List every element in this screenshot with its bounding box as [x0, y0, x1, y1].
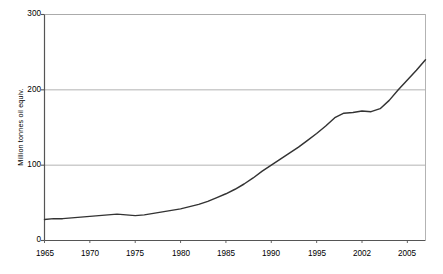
- y-tick-100: 100: [14, 161, 41, 169]
- x-tick-2000: 2002: [342, 249, 382, 259]
- x-tick-label: 1985: [206, 249, 246, 259]
- gridlines: [45, 15, 426, 166]
- x-tick-1990: 1990: [251, 249, 291, 259]
- axis-frame: [45, 15, 426, 241]
- y-tick-label: 200: [14, 86, 41, 94]
- axis-ticks: [41, 15, 407, 244]
- y-tick-300: 300: [14, 10, 41, 18]
- plot-area: [0, 0, 443, 274]
- x-tick-1970: 1970: [70, 249, 110, 259]
- y-tick-0: 0: [14, 236, 41, 244]
- x-tick-label: 1975: [115, 249, 155, 259]
- y-tick-label: 0: [14, 236, 41, 244]
- x-tick-label: 1965: [25, 249, 65, 259]
- x-tick-2005: 2005: [387, 249, 427, 259]
- x-tick-1965: 1965: [25, 249, 65, 259]
- x-tick-label: 2002: [342, 249, 382, 259]
- x-tick-1975: 1975: [115, 249, 155, 259]
- y-axis-title: Million tonnes oil equiv.: [14, 14, 28, 240]
- x-tick-label: 1980: [161, 249, 201, 259]
- x-tick-label: 1990: [251, 249, 291, 259]
- x-tick-1985: 1985: [206, 249, 246, 259]
- x-tick-label: 1995: [297, 249, 337, 259]
- x-tick-1980: 1980: [161, 249, 201, 259]
- y-tick-200: 200: [14, 86, 41, 94]
- y-tick-label: 100: [14, 161, 41, 169]
- y-tick-label: 300: [14, 10, 41, 18]
- data-series-line: [45, 60, 426, 220]
- x-tick-label: 2005: [387, 249, 427, 259]
- x-tick-1995: 1995: [297, 249, 337, 259]
- x-tick-label: 1970: [70, 249, 110, 259]
- line-chart: Million tonnes oil equiv. 300 200 100 0 …: [0, 0, 443, 274]
